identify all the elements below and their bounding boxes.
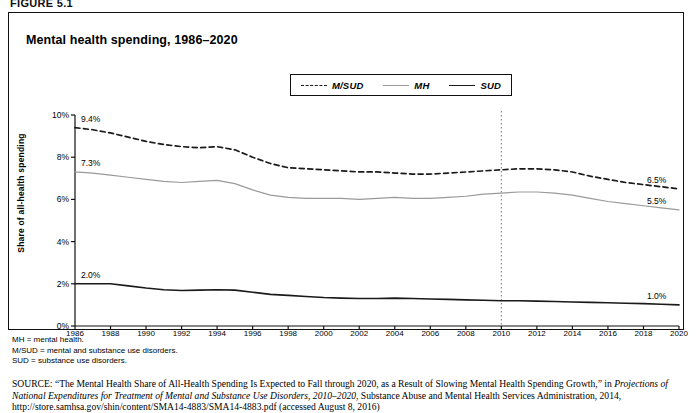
x-axis-tick-label: 2012	[528, 329, 546, 338]
plot-area: Share of all-health spending 0%2%4%6%8%1…	[9, 13, 696, 353]
series-line-mh	[75, 172, 679, 210]
data-label-m-sud: 6.5%	[647, 175, 666, 185]
data-label-mh: 7.3%	[81, 158, 100, 168]
data-label-m-sud: 9.4%	[81, 114, 100, 124]
x-axis-tick-label: 2016	[599, 329, 617, 338]
note-line: SUD = substance use disorders.	[12, 356, 178, 367]
x-axis-tick-label: 1996	[244, 329, 262, 338]
data-label-sud: 2.0%	[81, 270, 100, 280]
abbreviation-notes: MH = mental health. M/SUD = mental and s…	[12, 335, 178, 367]
chart-canvas	[9, 13, 696, 353]
x-axis-tick-label: 2010	[492, 329, 510, 338]
source-part1: “The Mental Health Share of All-Health S…	[53, 378, 615, 389]
figure-label: FIGURE 5.1	[10, 0, 73, 9]
source-prefix: SOURCE:	[12, 378, 53, 389]
x-axis-tick-label: 2020	[670, 329, 688, 338]
data-label-mh: 5.5%	[647, 196, 666, 206]
x-axis-tick-label: 1994	[208, 329, 226, 338]
note-line: M/SUD = mental and substance use disorde…	[12, 346, 178, 357]
figure-container: Mental health spending, 1986–2020 M/SUD …	[8, 12, 684, 330]
source-note: SOURCE: “The Mental Health Share of All-…	[12, 378, 684, 413]
x-axis-tick-label: 2018	[635, 329, 653, 338]
series-line-m-sud	[75, 128, 679, 189]
x-axis-tick-label: 2002	[350, 329, 368, 338]
x-axis-tick-label: 2004	[386, 329, 404, 338]
x-axis-tick-label: 2000	[315, 329, 333, 338]
x-axis-tick-label: 2014	[564, 329, 582, 338]
x-axis-tick-label: 2006	[421, 329, 439, 338]
x-axis-tick-label: 1998	[279, 329, 297, 338]
note-line: MH = mental health.	[12, 335, 178, 346]
x-axis-tick-label: 2008	[457, 329, 475, 338]
data-label-sud: 1.0%	[647, 291, 666, 301]
series-line-sud	[75, 284, 679, 305]
